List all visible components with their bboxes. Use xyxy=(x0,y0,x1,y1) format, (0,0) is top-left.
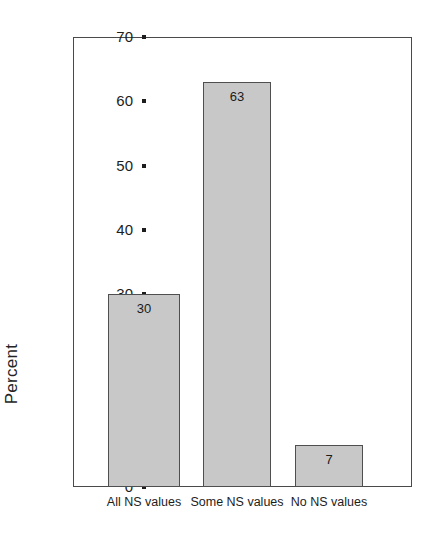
bar-value-label: 30 xyxy=(109,301,179,316)
y-axis-tick-label: 50 xyxy=(116,157,133,175)
y-axis-tick-label: 60 xyxy=(116,92,133,110)
bar-value-label: 63 xyxy=(204,89,270,104)
y-axis-tick-label: 70 xyxy=(116,28,133,46)
y-axis-tick-mark xyxy=(142,35,146,39)
bar: 63 xyxy=(203,82,271,487)
bar: 30 xyxy=(108,294,180,487)
bar: 7 xyxy=(295,445,363,487)
y-axis-tick-label: 40 xyxy=(116,221,133,239)
y-axis-tick-mark xyxy=(142,164,146,168)
bar-chart: Percent 010203040506070 30637 All NS val… xyxy=(0,0,432,534)
y-axis-tick-mark xyxy=(142,228,146,232)
y-axis-title: Percent xyxy=(0,326,24,422)
y-axis-tick-mark xyxy=(142,99,146,103)
plot-area: 010203040506070 30637 xyxy=(73,37,412,487)
bar-value-label: 7 xyxy=(296,452,362,467)
x-axis-category-label: No NS values xyxy=(269,494,389,510)
